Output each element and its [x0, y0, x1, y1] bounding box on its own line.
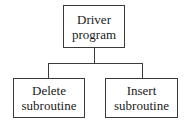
connector-line	[94, 48, 95, 64]
delete-subroutine-node: Delete subroutine	[13, 78, 85, 118]
node-label-line: Insert	[127, 83, 157, 98]
node-label-line: program	[72, 27, 116, 42]
connector-line	[48, 63, 49, 78]
driver-program-node: Driver program	[63, 5, 125, 48]
insert-subroutine-node: Insert subroutine	[105, 78, 178, 118]
node-label-line: subroutine	[114, 98, 169, 113]
connector-line	[48, 63, 143, 64]
node-label-line: Driver	[77, 12, 111, 27]
node-label-line: subroutine	[22, 98, 77, 113]
connector-line	[142, 63, 143, 78]
node-label-line: Delete	[32, 83, 66, 98]
